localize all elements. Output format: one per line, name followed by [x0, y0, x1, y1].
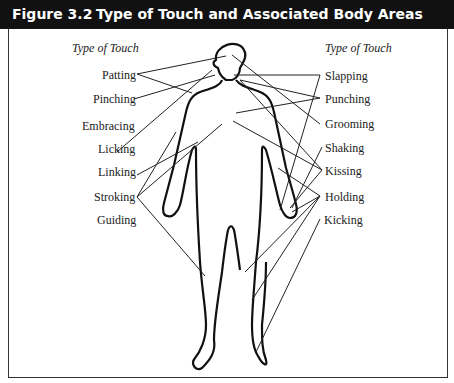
label-embracing: Embracing [82, 119, 135, 134]
label-licking: Licking [98, 142, 135, 157]
body-outline-diagram [0, 0, 454, 383]
label-pinching: Pinching [93, 92, 136, 107]
left-column-heading: Type of Touch [72, 41, 139, 56]
right-column-heading: Type of Touch [325, 41, 392, 56]
label-stroking: Stroking [94, 190, 135, 205]
label-kissing: Kissing [325, 164, 362, 179]
label-linking: Linking [98, 165, 136, 180]
label-grooming: Grooming [325, 117, 374, 132]
label-guiding: Guiding [97, 213, 136, 228]
label-patting: Patting [102, 68, 136, 83]
body-outline [163, 44, 297, 369]
label-holding: Holding [325, 190, 364, 205]
label-shaking: Shaking [325, 141, 364, 156]
label-kicking: Kicking [324, 213, 363, 228]
label-slapping: Slapping [325, 69, 368, 84]
connector-lines [117, 55, 322, 352]
label-punching: Punching [325, 92, 370, 107]
